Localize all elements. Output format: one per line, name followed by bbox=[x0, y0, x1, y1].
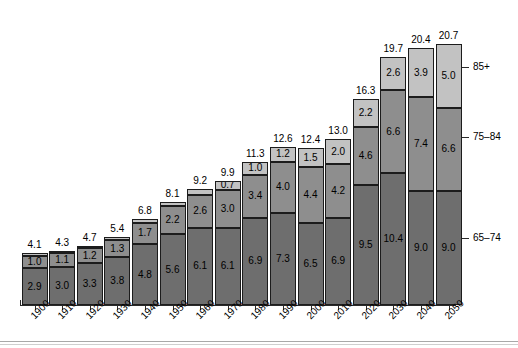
bar-total-label-2030: 19.7 bbox=[384, 44, 403, 54]
segment-value-label: 2.2 bbox=[359, 108, 373, 118]
legend-label-75-84: 75–84 bbox=[462, 132, 501, 142]
bar-segment-75-84-2020: 4.6 bbox=[353, 127, 379, 185]
bar-segment-85plus-1920 bbox=[77, 246, 103, 249]
bar-segment-85plus-2010: 2.0 bbox=[325, 139, 351, 164]
bar-segment-85plus-1940 bbox=[132, 219, 158, 223]
legend-text: 75–84 bbox=[473, 131, 501, 142]
bar-segment-85plus-1960 bbox=[187, 189, 213, 195]
segment-value-label: 7.4 bbox=[414, 139, 428, 149]
bar-2010: 6.94.22.013.0 bbox=[325, 139, 351, 305]
bar-total-label-1940: 6.8 bbox=[138, 206, 152, 216]
bar-segment-65-74-2010: 6.9 bbox=[325, 218, 351, 305]
bar-segment-65-74-2000: 6.5 bbox=[298, 223, 324, 305]
bar-segment-85plus-1930 bbox=[104, 237, 130, 241]
segment-value-label: 5.0 bbox=[442, 71, 456, 81]
bar-total-label-1990: 12.6 bbox=[273, 134, 292, 144]
bar-segment-65-74-1970: 6.1 bbox=[215, 228, 241, 305]
segment-value-label: 6.6 bbox=[386, 127, 400, 137]
bar-segment-75-84-2010: 4.2 bbox=[325, 164, 351, 217]
legend-text: 85+ bbox=[473, 61, 490, 72]
segment-value-label: 4.0 bbox=[276, 182, 290, 192]
bar-2040: 9.07.43.920.4 bbox=[408, 48, 434, 305]
bar-total-label-1960: 9.2 bbox=[193, 176, 207, 186]
segment-value-label: 1.7 bbox=[138, 228, 152, 238]
bar-segment-85plus-1910 bbox=[49, 251, 75, 254]
bar-segment-65-74-1960: 6.1 bbox=[187, 228, 213, 305]
bar-segment-75-84-1960: 2.6 bbox=[187, 195, 213, 228]
segment-value-label: 9.0 bbox=[414, 243, 428, 253]
segment-value-label: 3.0 bbox=[55, 281, 69, 291]
segment-value-label: 2.9 bbox=[28, 282, 42, 292]
segment-value-label: 9.0 bbox=[442, 243, 456, 253]
bar-segment-85plus-1950 bbox=[160, 202, 186, 206]
segment-value-label: 3.3 bbox=[83, 279, 97, 289]
bar-2020: 9.54.62.216.3 bbox=[353, 99, 379, 305]
segment-value-label: 10.4 bbox=[384, 234, 403, 244]
bar-total-label-1980: 11.3 bbox=[246, 149, 265, 159]
segment-value-label: 2.2 bbox=[166, 215, 180, 225]
bar-1920: 3.31.24.7 bbox=[77, 246, 103, 306]
legend-label-65-74: 65–74 bbox=[462, 233, 501, 243]
bar-segment-85plus-2050: 5.0 bbox=[436, 44, 462, 107]
bar-segment-75-84-1900: 1.0 bbox=[22, 256, 48, 269]
segment-value-label: 4.2 bbox=[331, 186, 345, 196]
bar-segment-75-84-1980: 3.4 bbox=[242, 175, 268, 218]
bar-segment-75-84-1970: 3.0 bbox=[215, 190, 241, 228]
segment-value-label: 9.5 bbox=[359, 240, 373, 250]
bar-segment-65-74-2020: 9.5 bbox=[353, 185, 379, 305]
segment-value-label: 1.1 bbox=[55, 255, 69, 265]
segment-value-label: 4.8 bbox=[138, 270, 152, 280]
bar-segment-85plus-1900 bbox=[22, 253, 48, 256]
bar-segment-75-84-2030: 6.6 bbox=[380, 90, 406, 174]
bar-segment-85plus-1980: 1.0 bbox=[242, 162, 268, 175]
segment-value-label: 3.0 bbox=[221, 204, 235, 214]
segment-value-label: 2.6 bbox=[386, 68, 400, 78]
segment-value-label: 1.0 bbox=[28, 257, 42, 267]
bar-segment-75-84-1940: 1.7 bbox=[132, 223, 158, 245]
segment-value-label: 1.2 bbox=[276, 149, 290, 159]
bar-2030: 10.46.62.619.7 bbox=[380, 57, 406, 305]
segment-value-label: 6.1 bbox=[221, 261, 235, 271]
bar-segment-75-84-2040: 7.4 bbox=[408, 97, 434, 191]
legend-label-85-: 85+ bbox=[462, 62, 490, 72]
bar-1980: 6.93.41.011.3 bbox=[242, 162, 268, 305]
segment-value-label: 3.8 bbox=[110, 276, 124, 286]
bar-total-label-2040: 20.4 bbox=[411, 35, 430, 45]
bar-segment-65-74-2030: 10.4 bbox=[380, 173, 406, 305]
bar-segment-75-84-1950: 2.2 bbox=[160, 206, 186, 234]
segment-value-label: 1.0 bbox=[248, 163, 262, 173]
segment-value-label: 1.2 bbox=[83, 251, 97, 261]
bar-segment-85plus-2020: 2.2 bbox=[353, 99, 379, 127]
legend-dash-icon bbox=[462, 137, 469, 138]
bar-1940: 4.81.76.8 bbox=[132, 219, 158, 305]
bar-segment-75-84-2000: 4.4 bbox=[298, 167, 324, 223]
segment-value-label: 6.1 bbox=[193, 261, 207, 271]
bar-segment-65-74-1990: 7.3 bbox=[270, 213, 296, 305]
bar-segment-75-84-1910: 1.1 bbox=[49, 253, 75, 267]
segment-value-label: 6.5 bbox=[304, 259, 318, 269]
bar-total-label-1920: 4.7 bbox=[83, 233, 97, 243]
bar-segment-65-74-1950: 5.6 bbox=[160, 234, 186, 305]
bar-total-label-2010: 13.0 bbox=[328, 126, 347, 136]
segment-value-label: 6.6 bbox=[442, 144, 456, 154]
bar-segment-85plus-2000: 1.5 bbox=[298, 148, 324, 167]
frame-divider-top bbox=[0, 341, 518, 342]
bar-1960: 6.12.69.2 bbox=[187, 189, 213, 305]
bar-2050: 9.06.65.020.7 bbox=[436, 44, 462, 305]
segment-value-label: 6.9 bbox=[331, 256, 345, 266]
bar-total-label-1970: 9.9 bbox=[221, 168, 235, 178]
stacked-bar-chart: 2.91.04.119003.01.14.319103.31.24.719203… bbox=[0, 0, 518, 348]
bar-segment-85plus-2040: 3.9 bbox=[408, 48, 434, 97]
bar-1950: 5.62.28.1 bbox=[160, 202, 186, 305]
bar-segment-75-84-1920: 1.2 bbox=[77, 248, 103, 263]
segment-value-label: 3.4 bbox=[248, 191, 262, 201]
chart-screenshot: 2.91.04.119003.01.14.319103.31.24.719203… bbox=[0, 0, 518, 348]
legend-text: 65–74 bbox=[473, 232, 501, 243]
frame-divider-bottom bbox=[0, 344, 518, 345]
segment-value-label: 4.6 bbox=[359, 151, 373, 161]
bar-total-label-2020: 16.3 bbox=[356, 86, 375, 96]
bar-total-label-2000: 12.4 bbox=[301, 135, 320, 145]
bar-segment-65-74-1980: 6.9 bbox=[242, 218, 268, 305]
segment-value-label: 4.4 bbox=[304, 190, 318, 200]
segment-value-label: 5.6 bbox=[166, 265, 180, 275]
